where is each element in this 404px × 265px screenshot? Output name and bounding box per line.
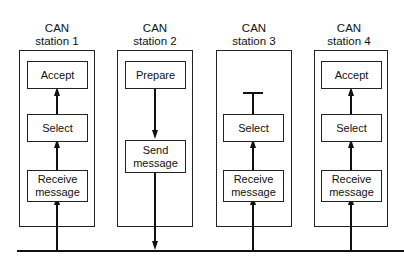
box-label: Select: [336, 122, 367, 135]
box-label: Select: [42, 122, 73, 135]
s4-receive-box: Receive message: [321, 170, 382, 202]
box-label: Receive: [332, 173, 372, 186]
s3-receive-box: Receive message: [223, 170, 284, 202]
s1-accept-box: Accept: [27, 61, 88, 89]
box-label: message: [231, 186, 276, 199]
box-label: Accept: [335, 69, 369, 82]
box-label: Prepare: [136, 69, 175, 82]
s2-send-box: Send message: [125, 140, 186, 173]
box-label: Receive: [234, 173, 274, 186]
box-label: Send: [143, 144, 169, 157]
s4-select-box: Select: [321, 114, 382, 142]
box-label: Receive: [38, 173, 78, 186]
box-label: Accept: [41, 69, 75, 82]
s4-accept-box: Accept: [321, 61, 382, 89]
s1-select-box: Select: [27, 114, 88, 142]
box-label: message: [35, 186, 80, 199]
s3-select-box: Select: [223, 114, 284, 142]
s1-receive-box: Receive message: [27, 170, 88, 202]
s2-prepare-box: Prepare: [125, 61, 186, 89]
box-label: Select: [238, 122, 269, 135]
box-label: message: [133, 157, 178, 170]
box-label: message: [329, 186, 374, 199]
